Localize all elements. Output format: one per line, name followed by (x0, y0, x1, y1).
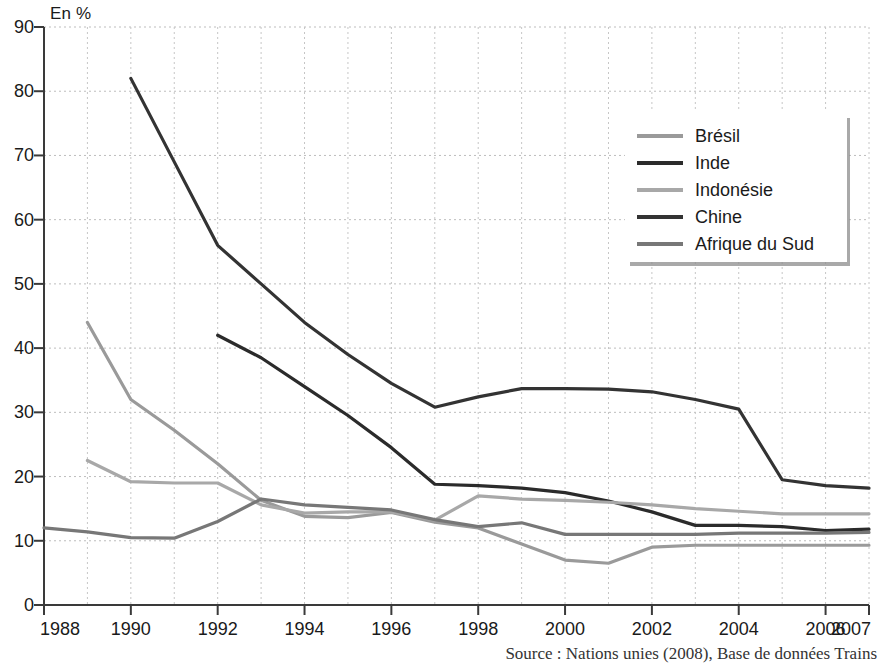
legend-item[interactable]: Brésil (637, 122, 740, 149)
source-note: Source : Nations unies (2008), Base de d… (505, 644, 877, 664)
legend-item[interactable]: Afrique du Sud (637, 230, 814, 257)
series-line-indon-sie (87, 461, 869, 521)
y-tick-label: 30 (0, 402, 34, 423)
legend-item-label: Indonésie (695, 181, 773, 199)
x-tick-label: 2004 (719, 619, 759, 640)
x-tick-label: 1992 (198, 619, 238, 640)
legend-item-label: Inde (695, 154, 730, 172)
x-tick-label: 1996 (371, 619, 411, 640)
legend-item-label: Chine (695, 208, 742, 226)
legend-item-label: Afrique du Sud (695, 235, 814, 253)
legend-item[interactable]: Inde (637, 149, 730, 176)
x-tick-label: 1998 (458, 619, 498, 640)
legend-color-swatch (637, 215, 683, 219)
series-line-afrique-du-sud (44, 499, 869, 538)
y-tick-label: 0 (0, 595, 34, 616)
x-tick-label: 2007 (831, 619, 871, 640)
legend-color-swatch (637, 134, 683, 138)
x-tick-label: 1994 (284, 619, 324, 640)
x-tick-label: 2000 (545, 619, 585, 640)
y-tick-label: 60 (0, 210, 34, 231)
legend-item[interactable]: Chine (637, 203, 742, 230)
legend-color-swatch (637, 161, 683, 165)
x-tick-label: 1988 (40, 619, 80, 640)
legend-color-swatch (637, 242, 683, 246)
legend-item[interactable]: Indonésie (637, 176, 773, 203)
y-axis-unit-label: En % (50, 4, 91, 24)
y-tick-label: 40 (0, 338, 34, 359)
y-tick-label: 10 (0, 531, 34, 552)
legend-color-swatch (637, 188, 683, 192)
x-tick-label: 1990 (111, 619, 151, 640)
y-tick-label: 80 (0, 81, 34, 102)
y-tick-label: 50 (0, 274, 34, 295)
y-tick-label: 70 (0, 145, 34, 166)
y-tick-label: 90 (0, 17, 34, 38)
legend-item-label: Brésil (695, 127, 740, 145)
chart-container: En % 0102030405060708090 198819901992199… (0, 0, 881, 668)
y-tick-label: 20 (0, 467, 34, 488)
line-chart-svg (0, 0, 881, 668)
chart-legend: BrésilIndeIndonésieChineAfrique du Sud (625, 112, 847, 262)
x-tick-label: 2002 (632, 619, 672, 640)
